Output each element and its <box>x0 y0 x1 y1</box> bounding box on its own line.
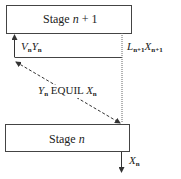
equilibrium-label: Yn EQUIL Xn <box>37 85 98 98</box>
vapor-comp-sub: n <box>38 46 42 54</box>
stage-label-prefix: Stage <box>49 132 79 146</box>
liquid-comp-sub: n+1 <box>151 46 162 54</box>
outlet-sub: n <box>136 160 140 168</box>
liquid-stream-label: Ln+1Xn+1 <box>127 41 163 54</box>
stage-label-suffix: + 1 <box>79 12 98 26</box>
stage-n-label: Stage n <box>49 133 85 145</box>
outlet-stream-label: Xn <box>129 155 140 168</box>
liquid-sub: n+1 <box>133 46 144 54</box>
equil-text: EQUIL <box>48 84 86 96</box>
vapor-stream-label: VnYn <box>21 41 42 54</box>
stage-n-plus-1-label: Stage n + 1 <box>43 13 97 25</box>
equil-x-sub: n <box>93 90 97 98</box>
vapor-var: V <box>21 40 28 52</box>
stage-label-prefix: Stage <box>43 12 73 26</box>
stage-label-var: n <box>79 132 85 146</box>
equil-x-var: X <box>86 84 93 96</box>
outlet-var: X <box>129 154 136 166</box>
